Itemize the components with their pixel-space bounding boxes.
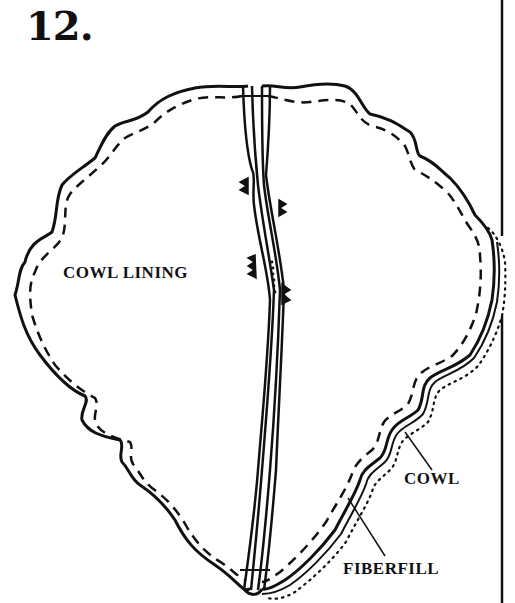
lining-outline-right [262, 84, 494, 589]
cowl-diagram [0, 0, 515, 603]
lining-outline [15, 86, 250, 590]
fiberfill-layer [268, 228, 505, 599]
label-cowl: COWL [404, 469, 460, 489]
label-fiberfill: FIBERFILL [343, 559, 439, 579]
seam-line [30, 96, 245, 580]
cowl-layer [262, 242, 499, 594]
seam-line-right [262, 96, 481, 582]
label-cowl-lining: COWL LINING [63, 263, 188, 283]
center-seam [243, 86, 284, 590]
